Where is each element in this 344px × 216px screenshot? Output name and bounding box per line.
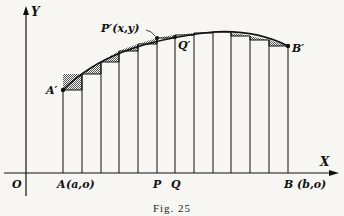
label-P: P xyxy=(152,178,162,191)
label-A-coordinates: (a,o) xyxy=(66,178,95,191)
figure-caption: Fig. 25 xyxy=(153,202,191,214)
y-axis-arrow-icon xyxy=(23,6,29,15)
point-B-prime xyxy=(286,44,290,48)
axes xyxy=(4,12,334,196)
label-Q-prime: Q′ xyxy=(178,39,191,52)
label-P-prime: P′(x,y) xyxy=(100,22,139,35)
label-B: B xyxy=(283,178,293,191)
x-axis-arrow-icon xyxy=(329,170,339,176)
origin-label: O xyxy=(12,178,22,191)
label-A: A xyxy=(56,178,66,191)
inscribed-rectangles xyxy=(63,32,288,173)
label-B-coordinates: (b,o) xyxy=(297,178,326,191)
x-axis-label: X xyxy=(319,155,330,169)
label-Q: Q xyxy=(171,178,181,191)
point-A-prime xyxy=(61,88,65,92)
y-axis-label: Y xyxy=(31,5,41,19)
p-prime-leader-arrow-icon xyxy=(146,30,155,36)
label-B-prime: B′ xyxy=(291,42,304,55)
label-A-prime: A′ xyxy=(45,84,58,97)
point-Q-prime xyxy=(173,35,177,39)
point-P-prime xyxy=(155,36,159,40)
figure-canvas: Y X O A′ P′(x,y) Q′ B′ A (a,o) P Q B (b,… xyxy=(0,0,344,216)
